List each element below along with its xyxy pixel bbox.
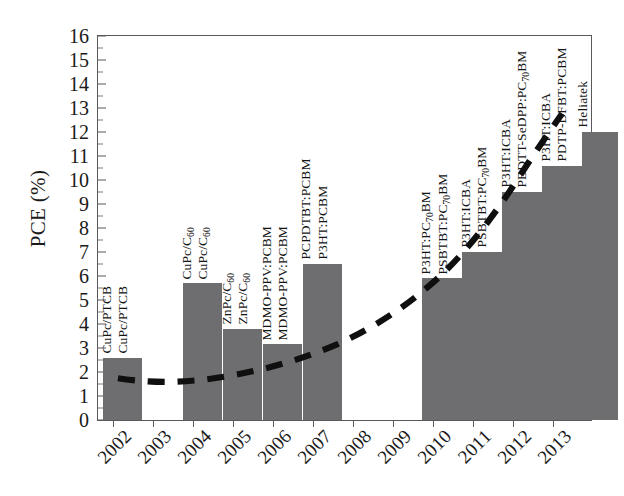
bar-annotation-2013-b: PDTP-DFBT:PCBM xyxy=(555,48,569,162)
y-tick-minor-13.5 xyxy=(98,96,103,97)
y-tick-label-11: 11 xyxy=(70,146,89,166)
bar-2013-heliatek xyxy=(582,132,617,420)
y-tick-label-6: 6 xyxy=(79,266,89,286)
y-tick-label-5: 5 xyxy=(79,290,89,310)
y-tick-label-12: 12 xyxy=(69,122,89,142)
bar-annotation-heliatek: Heliatek xyxy=(575,81,589,128)
y-tick-label-0: 0 xyxy=(79,410,89,430)
x-axis-label-2006: 2006 xyxy=(253,425,296,468)
x-axis-label-2009: 2009 xyxy=(373,425,416,468)
bar-2002 xyxy=(103,358,142,420)
x-axis-label-2013: 2013 xyxy=(533,425,576,468)
y-tick-label-14: 14 xyxy=(69,74,89,94)
bar-annotation-2005-a: ZnPc/C60 xyxy=(219,273,233,325)
x-tick-2002 xyxy=(113,420,114,427)
plot-area: 0 1 2 3 4 5 6 7 8 9 xyxy=(97,35,592,421)
bar-annotation-2011-a: P3HT:ICBA xyxy=(459,179,473,248)
bar-annotation-2006-b: MDMO-PPV:PCBM xyxy=(275,226,289,340)
x-axis-label-2010: 2010 xyxy=(413,425,456,468)
y-tick-8 xyxy=(98,228,106,229)
x-axis-label-2002: 2002 xyxy=(94,425,137,468)
y-tick-minor-1.5 xyxy=(98,384,103,385)
y-tick-minor-8.5 xyxy=(98,216,103,217)
y-tick-9 xyxy=(98,204,106,205)
bar-2011 xyxy=(462,252,501,420)
y-tick-10 xyxy=(98,180,106,181)
y-tick-label-13: 13 xyxy=(69,98,89,118)
x-tick-2013 xyxy=(553,420,554,427)
bar-annotation-2013-a: P3HT:ICBA xyxy=(539,93,553,162)
bar-2007 xyxy=(303,264,342,420)
bar-2005 xyxy=(223,329,262,420)
y-tick-minor-10.5 xyxy=(98,168,103,169)
y-tick-minor-12.5 xyxy=(98,120,103,121)
y-tick-label-10: 10 xyxy=(69,170,89,190)
y-tick-label-1: 1 xyxy=(79,386,89,406)
x-tick-2011 xyxy=(473,420,474,427)
bar-annotation-2010-b: PSBTBT:PC70BM xyxy=(435,173,449,274)
y-tick-minor-11.5 xyxy=(98,144,103,145)
x-tick-2005 xyxy=(233,420,234,427)
y-tick-11 xyxy=(98,156,106,157)
x-tick-2009 xyxy=(393,420,394,427)
x-tick-2010 xyxy=(433,420,434,427)
bar-annotation-2002-a: CuPc/PTCB xyxy=(99,286,113,354)
bar-2004 xyxy=(183,283,222,420)
bar-2010 xyxy=(422,278,461,420)
y-tick-15 xyxy=(98,60,106,61)
x-tick-2003 xyxy=(153,420,154,427)
y-tick-minor-6.5 xyxy=(98,264,103,265)
bar-2006 xyxy=(263,344,302,420)
x-axis-label-2011: 2011 xyxy=(453,425,496,468)
y-axis-title: PCE (%) xyxy=(26,109,51,309)
x-axis-label-2004: 2004 xyxy=(173,425,216,468)
bar-annotation-2006-a: MDMO-PPV:PCBM xyxy=(259,226,273,340)
x-axis-label-2005: 2005 xyxy=(213,425,256,468)
y-tick-label-16: 16 xyxy=(69,26,89,46)
bar-annotation-2007-b: P3HT:PCBM xyxy=(315,186,329,260)
y-tick-minor-15.5 xyxy=(98,48,103,49)
bar-annotation-2007-a: PCPDTBT:PCBM xyxy=(299,159,313,260)
y-tick-label-7: 7 xyxy=(79,242,89,262)
y-tick-label-9: 9 xyxy=(79,194,89,214)
bar-annotation-2004-b: CuPc/C60 xyxy=(195,227,209,279)
bar-annotation-2005-b: ZnPc/C60 xyxy=(235,273,249,325)
y-tick-label-3: 3 xyxy=(79,338,89,358)
y-tick-minor-9.5 xyxy=(98,192,103,193)
x-axis-label-2008: 2008 xyxy=(333,425,376,468)
x-tick-2006 xyxy=(273,420,274,427)
y-tick-label-15: 15 xyxy=(69,50,89,70)
y-tick-minor-0.5 xyxy=(98,408,103,409)
x-axis-label-2012: 2012 xyxy=(493,425,536,468)
bar-annotation-2012-b: PBDTT-SeDPP:PC70BM xyxy=(515,51,529,188)
x-tick-2008 xyxy=(353,420,354,427)
x-tick-2007 xyxy=(313,420,314,427)
y-tick-12 xyxy=(98,132,106,133)
y-tick-minor-2.5 xyxy=(98,360,103,361)
y-tick-label-2: 2 xyxy=(79,362,89,382)
x-axis-label-2003: 2003 xyxy=(133,425,176,468)
bar-annotation-2004-a: CuPc/C60 xyxy=(179,227,193,279)
y-tick-minor-7.5 xyxy=(98,240,103,241)
bar-annotation-2011-b: PSBTBT:PC70BM xyxy=(475,147,489,248)
y-tick-minor-14.5 xyxy=(98,72,103,73)
y-tick-6 xyxy=(98,276,106,277)
bar-annotation-2010-a: P3HT:PC70BM xyxy=(419,191,433,274)
y-tick-label-8: 8 xyxy=(79,218,89,238)
y-tick-7 xyxy=(98,252,106,253)
x-tick-2004 xyxy=(193,420,194,427)
bar-annotation-2012-a: P3HT:ICBA xyxy=(499,119,513,188)
bar-2013 xyxy=(542,166,581,420)
y-tick-label-4: 4 xyxy=(79,314,89,334)
x-axis-label-2007: 2007 xyxy=(293,425,336,468)
y-tick-13 xyxy=(98,108,106,109)
y-tick-14 xyxy=(98,84,106,85)
y-tick-16 xyxy=(98,36,106,37)
bar-annotation-2002-b: CuPc/PTCB xyxy=(116,286,130,354)
x-tick-2012 xyxy=(513,420,514,427)
pce-bar-chart-figure: PCE (%) 0 1 2 3 4 5 6 7 xyxy=(0,0,624,496)
bar-2012 xyxy=(502,192,541,420)
